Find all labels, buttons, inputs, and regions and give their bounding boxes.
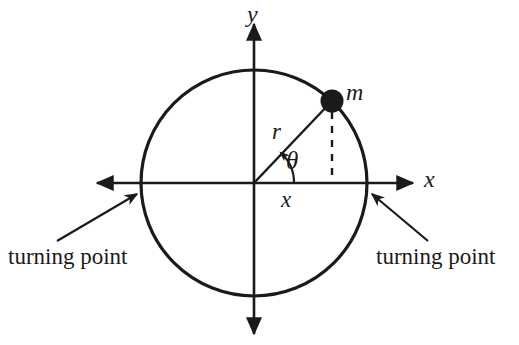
mass-label: m bbox=[346, 80, 363, 104]
turning-point-right-leader-arrow bbox=[372, 194, 428, 241]
mass-point-dot bbox=[321, 90, 344, 113]
diagram-canvas bbox=[0, 0, 519, 345]
x-axis-label: x bbox=[424, 167, 435, 191]
radius-label: r bbox=[272, 120, 281, 143]
physics-diagram-figure: y x m r θ x turning point turning point bbox=[0, 0, 519, 345]
y-axis-label: y bbox=[247, 2, 258, 26]
turning-point-right-label: turning point bbox=[376, 245, 495, 268]
turning-point-left-leader-arrow bbox=[57, 194, 137, 241]
angle-theta-label: θ bbox=[286, 148, 298, 173]
turning-point-left-label: turning point bbox=[8, 245, 127, 268]
x-projection-label: x bbox=[281, 188, 291, 211]
